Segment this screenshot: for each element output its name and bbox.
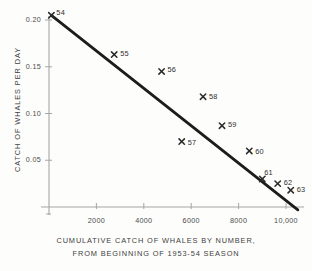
x-axis-caption-line-1: CUMULATIVE CATCH OF WHALES BY NUMBER, (0, 236, 312, 245)
data-point-label: 60 (255, 147, 264, 156)
data-point-markers (49, 13, 294, 193)
x-tick-label: 8000 (219, 216, 259, 225)
x-axis-ticks (46, 203, 286, 214)
x-tick-label: 4000 (124, 216, 164, 225)
data-point-label: 63 (297, 185, 306, 194)
data-point-label: 59 (228, 120, 237, 129)
whale-catch-scatter-chart: 0.050.100.150.20 200040006000800010,000 … (0, 0, 312, 271)
y-tick-label: 0.20 (8, 15, 41, 24)
y-axis-title: CATCH OF WHALES PER DAY (13, 30, 22, 190)
data-point-label: 57 (188, 138, 197, 147)
x-tick-label: 10,000 (266, 216, 306, 225)
scatter-marker (275, 181, 280, 186)
x-tick-label: 6000 (171, 216, 211, 225)
data-point-label: 54 (56, 8, 65, 17)
data-point-label: 61 (264, 168, 273, 177)
data-point-label: 58 (209, 92, 218, 101)
scatter-marker (219, 123, 224, 128)
scatter-marker (200, 94, 205, 99)
scatter-marker (179, 139, 184, 144)
data-point-label: 55 (120, 49, 129, 58)
scatter-marker (111, 52, 116, 57)
x-tick-label: 2000 (76, 216, 116, 225)
scatter-marker (247, 148, 252, 153)
scatter-marker (159, 69, 164, 74)
data-point-label: 56 (168, 65, 177, 74)
scatter-marker (288, 187, 293, 192)
chart-canvas (0, 0, 312, 271)
x-axis-caption-line-2: FROM BEGINNING OF 1953-54 SEASON (0, 249, 312, 258)
data-point-label: 62 (284, 178, 293, 187)
